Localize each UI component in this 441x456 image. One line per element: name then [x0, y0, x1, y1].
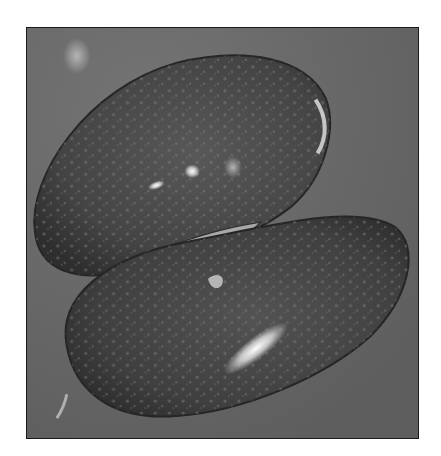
seed-photo-figure — [26, 27, 419, 439]
figure-caption — [26, 449, 419, 456]
light-spot — [63, 38, 91, 74]
seed-photo — [27, 28, 418, 438]
